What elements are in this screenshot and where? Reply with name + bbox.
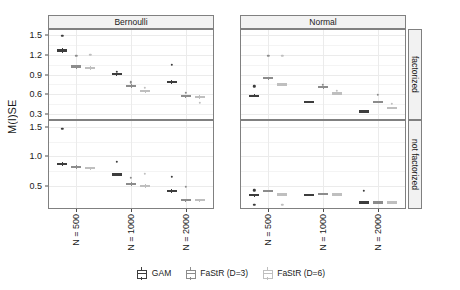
panel-bernoulli-not-factorized <box>48 120 214 209</box>
y-tick-mark <box>45 185 48 186</box>
gridline-vertical <box>323 30 324 119</box>
y-tick-mark <box>45 156 48 157</box>
x-tick-label: N = 2000 <box>181 214 191 251</box>
box-plot-median <box>181 95 191 97</box>
box-plot-median <box>85 167 95 169</box>
box-plot-median <box>332 92 342 94</box>
legend-label: FaStR (D=3) <box>200 268 248 278</box>
legend-label: GAM <box>152 268 171 278</box>
box-plot-outlier <box>170 175 172 177</box>
gridline-vertical <box>268 121 269 208</box>
gridline-vertical <box>186 121 187 208</box>
box-plot-median <box>373 101 383 103</box>
box-plot-median <box>304 101 314 103</box>
box-whisker-lower <box>145 92 146 93</box>
y-tick-mark <box>45 74 48 75</box>
gridline-vertical <box>131 121 132 208</box>
x-tick-mark <box>268 209 269 212</box>
box-plot-outlier <box>281 204 283 206</box>
box-plot-outlier <box>253 85 255 87</box>
box-plot-outlier <box>362 190 364 192</box>
x-tick-label: N = 2000 <box>373 214 383 251</box>
box-plot-median <box>167 190 177 192</box>
gridline-vertical <box>268 30 269 119</box>
box-plot-median <box>167 81 177 83</box>
legend-label: FaStR (D=6) <box>277 268 325 278</box>
box-plot-median <box>359 201 369 203</box>
panel-normal-factorized <box>240 29 406 120</box>
box-plot-median <box>277 83 287 85</box>
y-tick-mark <box>45 113 48 114</box>
box-plot-median <box>263 77 273 79</box>
box-plot-median <box>304 194 314 196</box>
box-whisker-lower <box>116 75 117 76</box>
box-whisker-lower <box>185 97 186 98</box>
box-plot-median <box>181 199 191 201</box>
y-tick-label: 1.5 <box>29 30 42 40</box>
box-plot-median <box>71 66 81 68</box>
x-tick-mark <box>131 209 132 212</box>
legend-item-fastr-d-3-[interactable]: FaStR (D=3) <box>183 267 248 280</box>
box-whisker-lower <box>268 79 269 80</box>
box-plot-median <box>387 107 397 109</box>
box-whisker-lower <box>62 52 63 53</box>
box-plot-median <box>195 199 205 201</box>
box-plot-median <box>57 163 67 165</box>
box-plot-median <box>140 90 150 92</box>
box-plot-median <box>249 95 259 97</box>
x-tick-mark <box>76 209 77 212</box>
x-tick-mark <box>378 209 379 212</box>
y-tick-label: 0.6 <box>29 89 42 99</box>
box-plot-median <box>373 201 383 203</box>
box-plot-outlier <box>144 173 146 175</box>
box-plot-median <box>249 194 259 196</box>
y-tick-label: 1.5 <box>29 122 42 132</box>
gridline-vertical <box>186 30 187 119</box>
box-whisker-lower <box>131 87 132 88</box>
box-plot-median <box>126 183 136 185</box>
y-axis-title: M(I)SE <box>5 62 19 172</box>
box-plot-median <box>332 193 342 195</box>
panel-bernoulli-factorized <box>48 29 214 120</box>
box-plot-outlier <box>253 204 255 206</box>
y-tick-mark <box>45 126 48 127</box>
x-tick-label: N = 1000 <box>126 214 136 251</box>
gridline-vertical <box>131 30 132 119</box>
facet-row-strip-not-factorized: not factorized <box>408 120 422 209</box>
facet-row-label: not factorized <box>410 139 420 190</box>
facet-row-label: factorized <box>410 56 420 93</box>
box-plot-median <box>126 85 136 87</box>
box-plot-median <box>318 86 328 88</box>
legend-item-gam[interactable]: GAM <box>135 267 171 280</box>
box-whisker-lower <box>199 98 200 99</box>
box-plot-median <box>318 193 328 195</box>
x-tick-mark <box>186 209 187 212</box>
facet-col-strip-normal: Normal <box>240 15 406 29</box>
box-plot-median <box>387 201 397 203</box>
facet-row-strip-factorized: factorized <box>408 29 422 120</box>
box-plot-median <box>85 67 95 69</box>
x-tick-label: N = 500 <box>71 214 81 246</box>
box-plot-outlier <box>253 189 255 191</box>
gridline-vertical <box>378 30 379 119</box>
y-tick-label: 1.0 <box>29 151 42 161</box>
facet-col-label: Bernoulli <box>114 17 147 27</box>
gridline-vertical <box>378 121 379 208</box>
box-whisker-lower <box>76 68 77 69</box>
y-tick-mark <box>45 35 48 36</box>
box-plot-median <box>71 166 81 168</box>
y-tick-label: 0.5 <box>29 181 42 191</box>
x-tick-label: N = 500 <box>263 214 273 246</box>
chart-legend: GAMFaStR (D=3)FaStR (D=6) <box>0 262 460 284</box>
box-plot-median <box>57 49 67 51</box>
facet-col-strip-bernoulli: Bernoulli <box>48 15 214 29</box>
panel-normal-not-factorized <box>240 120 406 209</box>
gridline-vertical <box>76 30 77 119</box>
legend-item-fastr-d-6-[interactable]: FaStR (D=6) <box>260 267 325 280</box>
box-plot-median <box>112 173 122 175</box>
box-plot-median <box>263 190 273 192</box>
legend-key-icon <box>135 267 148 280</box>
y-tick-mark <box>45 94 48 95</box>
y-tick-mark <box>45 54 48 55</box>
box-plot-median <box>140 185 150 187</box>
